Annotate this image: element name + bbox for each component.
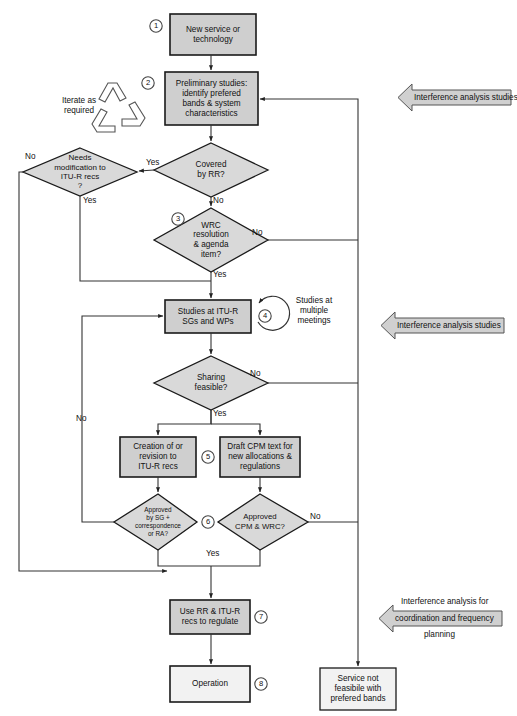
- connector-lines: [19, 55, 358, 666]
- annotation-2-text: Interference analysis studies: [397, 321, 501, 331]
- marker-5: 5: [202, 451, 214, 463]
- node-studies-itur: [165, 300, 251, 333]
- node-use-rr: [170, 600, 250, 634]
- marker-7: 7: [255, 611, 267, 623]
- marker-2: 2: [142, 77, 154, 89]
- annotation-arrows: [379, 84, 511, 632]
- node-service-not-feasible: [320, 668, 396, 710]
- edge-label-needs-yes: Yes: [83, 196, 96, 206]
- edge-label-sharing-yes: Yes: [213, 409, 226, 419]
- marker-6: 6: [202, 516, 214, 528]
- flowchart-canvas: New service or technology Preliminary st…: [0, 0, 517, 716]
- edge-label-needs-no: No: [25, 152, 35, 162]
- marker-4: 4: [259, 310, 271, 322]
- annotation-1-text: Interference analysis studies: [414, 93, 517, 103]
- side-note-iterate: Iterate as required: [50, 96, 108, 116]
- edge-label-approved-yes: Yes: [206, 549, 219, 559]
- marker-3: 3: [172, 213, 184, 225]
- marker-8: 8: [255, 678, 267, 690]
- annotation-3-text: coordination and frequency: [395, 614, 494, 624]
- side-note-multiple-meetings: Studies at multiple meetings: [285, 296, 343, 326]
- annotation-3-above: Interference analysis for: [401, 597, 488, 607]
- node-shapes: [23, 14, 396, 710]
- node-preliminary-studies: [165, 72, 258, 125]
- edge-label-wrc-no: No: [252, 228, 262, 238]
- edge-label-covered-no: No: [213, 196, 223, 206]
- annotation-3-below: planning: [424, 630, 455, 640]
- node-operation: [170, 666, 250, 702]
- edge-label-approved-cpm-no: No: [310, 512, 320, 522]
- node-approved-cpm-wrc: [218, 494, 308, 550]
- edge-label-approved-sg-no: No: [76, 414, 86, 424]
- node-sharing-feasible: [154, 356, 268, 410]
- node-creation-revision: [120, 437, 196, 477]
- edge-label-covered-yes: Yes: [146, 158, 159, 168]
- node-new-service: [170, 14, 256, 55]
- node-draft-cpm: [220, 437, 300, 477]
- node-needs-modification: [23, 148, 137, 196]
- node-approved-sg: [114, 494, 197, 550]
- node-covered-by-rr: [154, 143, 268, 197]
- edge-label-sharing-no: No: [250, 369, 260, 379]
- marker-1: 1: [150, 20, 162, 32]
- edge-label-wrc-yes: Yes: [213, 270, 226, 280]
